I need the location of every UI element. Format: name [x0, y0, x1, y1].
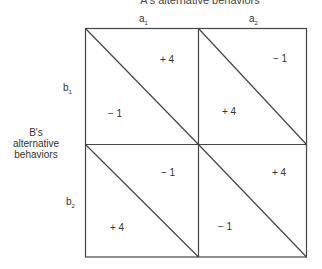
diagonal-b2-a2 — [199, 145, 307, 258]
diagonal-b1-a2 — [199, 29, 307, 145]
diagonal-b2-a1 — [86, 145, 199, 258]
payoff-b2-a1-lower: + 4 — [110, 222, 124, 233]
diagonal-b1-a1 — [86, 29, 199, 145]
payoff-b1-a1-lower: − 1 — [108, 108, 122, 119]
payoff-b2-a1-upper: − 1 — [161, 167, 175, 178]
payoff-b1-a1-upper: + 4 — [160, 54, 174, 65]
payoff-b2-a2-upper: + 4 — [272, 167, 286, 178]
payoff-grid — [0, 0, 322, 269]
payoff-b2-a2-lower: − 1 — [218, 221, 232, 232]
payoff-b1-a2-upper: − 1 — [273, 53, 287, 64]
payoff-b1-a2-lower: + 4 — [222, 106, 236, 117]
